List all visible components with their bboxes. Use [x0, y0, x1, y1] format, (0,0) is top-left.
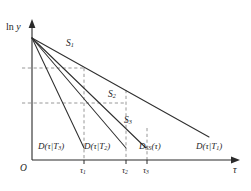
figure-canvas [0, 0, 251, 191]
origin-label: O [20, 164, 27, 174]
curve-label-S2: S2 [108, 90, 116, 100]
end-label-D-tau-given-T3: D(τ|T3) [38, 142, 64, 152]
x-axis-label: τ [233, 165, 237, 175]
decay-line-S1 [32, 38, 209, 137]
tick-label-tau1: τ1 [80, 166, 86, 176]
y-axis-label-var: y [16, 21, 20, 32]
decay-line-S4 [32, 38, 84, 148]
tick-label-tau2: τ2 [122, 166, 128, 176]
x-axis-arrow-icon [231, 157, 240, 164]
x-tick-marks [84, 160, 147, 164]
y-axis-arrow-icon [29, 19, 36, 28]
end-label-D-SS-tau: DSS(τ) [139, 142, 161, 152]
y-axis-label: ln y [6, 22, 21, 32]
decay-line-S2 [32, 38, 146, 148]
curve-label-S3: S3 [124, 116, 132, 126]
end-label-D-tau-given-T2: D(τ|T2) [84, 142, 110, 152]
curve-label-S1: S1 [66, 39, 74, 49]
end-label-D-tau-given-T1: D(τ|T1) [196, 142, 222, 152]
tick-label-tau3: τ3 [143, 166, 149, 176]
figure-root: ln y τ O S1 S2 S3 D(τ|T3) D(τ|T2) DSS(τ)… [0, 0, 251, 191]
y-axis-label-prefix: ln [6, 21, 14, 32]
decay-lines [32, 38, 209, 148]
